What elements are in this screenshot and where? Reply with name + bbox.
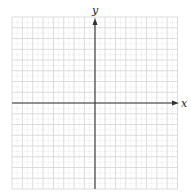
y-axis-arrow-icon xyxy=(93,18,98,25)
x-axis-label: x xyxy=(181,97,188,110)
coordinate-plane: x y xyxy=(0,0,191,193)
x-axis-arrow-icon xyxy=(172,101,179,106)
y-axis-label: y xyxy=(91,4,99,17)
